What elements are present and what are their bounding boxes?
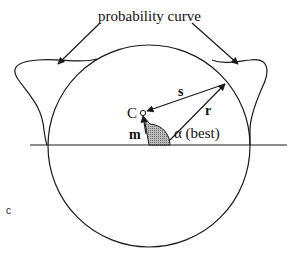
- vector-s-label: s: [178, 84, 184, 99]
- probability-curve-label: probability curve: [98, 8, 201, 24]
- vector-m-label: m: [129, 127, 141, 142]
- point-c-label: C: [127, 105, 137, 121]
- vector-r-label: r: [205, 103, 211, 118]
- angle-alpha-wedge: [144, 117, 170, 145]
- panel-label: c: [6, 205, 11, 216]
- vector-s: [147, 84, 225, 111]
- angle-alpha-label: α (best): [174, 125, 220, 142]
- sensor-circle: [48, 45, 250, 247]
- probability-curve-left: [15, 59, 97, 145]
- point-c: [140, 110, 145, 115]
- diagram-canvas: probability curve C s r m α (best) c: [0, 0, 300, 256]
- label-arrow-left: [58, 23, 100, 64]
